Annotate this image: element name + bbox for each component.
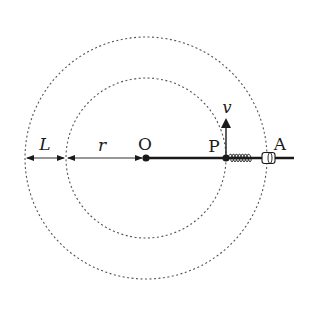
label-P: P bbox=[208, 136, 219, 156]
diagram-canvas: L r O P A v bbox=[0, 0, 321, 311]
label-L: L bbox=[38, 134, 50, 154]
label-A: A bbox=[273, 134, 287, 154]
label-O: O bbox=[138, 134, 152, 154]
spring bbox=[228, 154, 251, 162]
point-P bbox=[222, 154, 229, 161]
center-point-O bbox=[142, 154, 149, 161]
label-v: v bbox=[222, 98, 231, 117]
sleeve-A bbox=[262, 153, 275, 164]
label-r: r bbox=[98, 135, 107, 155]
rotating-rod-diagram: L r O P A v bbox=[0, 0, 321, 311]
